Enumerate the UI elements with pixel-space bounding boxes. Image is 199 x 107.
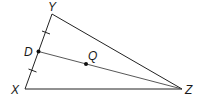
label-z: Z	[184, 83, 193, 97]
point-d	[37, 50, 41, 54]
side-yz	[52, 14, 182, 89]
label-d: D	[24, 45, 33, 59]
label-x: X	[10, 83, 20, 97]
label-q: Q	[88, 49, 97, 63]
triangle-diagram: Y X Z D Q	[0, 0, 199, 107]
label-y: Y	[48, 0, 57, 14]
segment-dz	[39, 52, 183, 90]
